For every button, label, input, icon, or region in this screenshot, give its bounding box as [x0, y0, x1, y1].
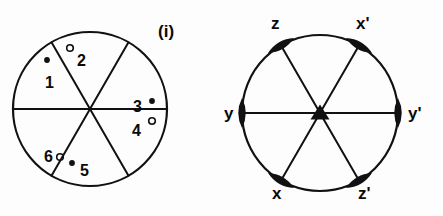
center-triangle-icon — [310, 104, 329, 119]
lens-marker-y — [238, 98, 246, 128]
axis-label-z: z — [271, 14, 280, 34]
axis-label-y: y — [224, 104, 233, 124]
axis-label-z-prime: z' — [358, 184, 371, 204]
axis-label-x-prime: x' — [356, 14, 370, 34]
axis-label-x: x — [272, 184, 281, 204]
axis-label-y-prime: y' — [408, 104, 422, 124]
panel-ii-lens-circle: zx'y'z'xy (ii) — [220, 0, 443, 216]
panel-ii-drawing — [0, 0, 443, 216]
lens-marker-y-prime — [394, 98, 402, 128]
figure-root: 123456 (i) zx'y'z'xy (ii) — [0, 0, 443, 216]
